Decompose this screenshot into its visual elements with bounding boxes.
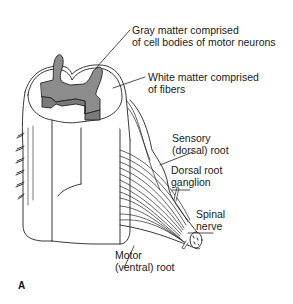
label-gray-matter-line2: of cell bodies of motor neurons [132,37,276,49]
label-gray-matter-line1: Gray matter comprised [132,25,276,37]
label-sensory-root: Sensory (dorsal) root [172,133,229,156]
leader-gray-matter [96,30,130,68]
label-gray-matter: Gray matter comprised of cell bodies of … [132,25,276,48]
label-spinal-nerve: Spinal nerve [196,209,225,232]
label-sensory-root-line1: Sensory [172,133,229,145]
label-dorsal-root-ganglion-line1: Dorsal root [171,165,222,177]
label-sensory-root-line2: (dorsal) root [172,145,229,157]
label-white-matter-line1: White matter comprised [148,72,259,84]
panel-letter: A [18,280,25,291]
label-spinal-nerve-line2: nerve [196,221,225,233]
label-motor-root: Motor (ventral) root [115,250,175,273]
label-motor-root-line1: Motor [115,250,175,262]
label-spinal-nerve-line1: Spinal [196,209,225,221]
label-dorsal-root-ganglion-line2: ganglion [171,177,222,189]
label-white-matter: White matter comprised of fibers [148,72,259,95]
label-dorsal-root-ganglion: Dorsal root ganglion [171,165,222,188]
label-white-matter-line2: of fibers [148,84,259,96]
label-motor-root-line2: (ventral) root [115,262,175,274]
